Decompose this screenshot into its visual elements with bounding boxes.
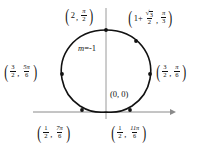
point-marker-upper-right xyxy=(134,39,138,43)
point-marker-lower-left xyxy=(80,108,84,112)
theta-denominator: 6 xyxy=(24,71,29,79)
slope-annotation: m=-1 xyxy=(78,44,96,53)
radius-fraction-left: 3 2 xyxy=(10,64,16,79)
point-label-lower-right: ( 1 2 , 11π 6 ) xyxy=(110,125,147,140)
theta-fraction-top: π 2 xyxy=(81,8,87,23)
radius-fraction-upper-right: √3 2 xyxy=(144,10,155,26)
theta-denominator: 3 xyxy=(161,17,166,25)
point-marker-right xyxy=(148,72,152,76)
point-label-upper-right: ( 1+ √3 2 , π 3 ) xyxy=(127,10,174,26)
radius-fraction-lower-right: 1 2 xyxy=(117,125,123,140)
pair-comma: , xyxy=(76,13,80,23)
radius-value-top: 2 xyxy=(71,11,75,20)
pair-comma: , xyxy=(50,130,54,140)
theta-denominator: 6 xyxy=(132,132,137,140)
ordered-pair-lower-right: ( 1 2 , 11π 6 ) xyxy=(110,125,147,140)
theta-fraction-lower-left: 7π 6 xyxy=(55,125,65,140)
radius-lead-upper-right: 1+ xyxy=(134,14,143,23)
radius-numerator-sqrt: √3 xyxy=(144,10,154,18)
ordered-pair-lower-left: ( 1 2 , 7π 6 ) xyxy=(36,125,71,140)
right-paren: ) xyxy=(89,9,93,23)
point-label-lower-left: ( 1 2 , 7π 6 ) xyxy=(36,125,71,140)
x-axis-arrow-icon xyxy=(170,109,176,115)
left-paren: ( xyxy=(111,126,115,140)
theta-numerator: π xyxy=(161,10,166,17)
right-paren: ) xyxy=(169,11,173,25)
point-marker-top xyxy=(104,28,108,32)
theta-denominator: 2 xyxy=(81,15,86,23)
ordered-pair-top: ( 2 , π 2 ) xyxy=(64,8,94,23)
left-paren: ( xyxy=(156,65,160,79)
theta-fraction-right: π 6 xyxy=(174,64,180,79)
cardioid-figure: ( 2 , π 2 ) ( 1+ √3 xyxy=(0,0,207,149)
left-paren: ( xyxy=(37,126,41,140)
point-label-top: ( 2 , π 2 ) xyxy=(64,8,94,23)
pair-comma: , xyxy=(169,69,173,79)
theta-denominator: 6 xyxy=(174,71,179,79)
slope-value: -1 xyxy=(89,43,96,53)
sqrt-radicand: 3 xyxy=(149,11,153,18)
radius-numerator: 3 xyxy=(162,64,167,71)
ordered-pair-left: ( 3 2 , 5π 6 ) xyxy=(3,64,38,79)
radius-denominator: 2 xyxy=(147,18,152,26)
origin-label: (0, 0) xyxy=(110,90,128,99)
right-paren: ) xyxy=(142,126,146,140)
theta-fraction-left: 5π 6 xyxy=(22,64,32,79)
left-paren: ( xyxy=(4,65,8,79)
left-paren: ( xyxy=(65,9,69,23)
radius-numerator: 3 xyxy=(10,64,15,71)
left-paren: ( xyxy=(128,11,132,25)
radius-numerator: 1 xyxy=(43,125,48,132)
ordered-pair-right: ( 3 2 , π 6 ) xyxy=(155,64,187,79)
radius-fraction-right: 3 2 xyxy=(162,64,168,79)
theta-fraction-lower-right: 11π 6 xyxy=(129,125,141,139)
point-marker-lower-right xyxy=(128,108,132,112)
right-paren: ) xyxy=(66,126,70,140)
theta-numerator: π xyxy=(81,8,86,15)
ordered-pair-upper-right: ( 1+ √3 2 , π 3 ) xyxy=(127,10,174,26)
sqrt-icon: √3 xyxy=(145,10,153,18)
point-label-right: ( 3 2 , π 6 ) xyxy=(155,64,187,79)
radius-fraction-lower-left: 1 2 xyxy=(43,125,49,140)
radius-denominator: 2 xyxy=(162,71,167,79)
right-paren: ) xyxy=(33,65,37,79)
point-label-left: ( 3 2 , 5π 6 ) xyxy=(3,64,38,79)
pair-comma: , xyxy=(124,130,128,140)
pair-comma: , xyxy=(156,16,160,26)
radius-denominator: 2 xyxy=(43,132,48,140)
right-paren: ) xyxy=(182,65,186,79)
theta-numerator: 7π xyxy=(55,125,64,132)
theta-numerator: 5π xyxy=(22,64,31,71)
theta-fraction-upper-right: π 3 xyxy=(161,10,167,25)
radius-denominator: 2 xyxy=(117,132,122,140)
point-marker-left xyxy=(60,72,64,76)
radius-numerator: 1 xyxy=(117,125,122,132)
theta-denominator: 6 xyxy=(57,132,62,140)
pair-comma: , xyxy=(17,69,21,79)
radius-denominator: 2 xyxy=(10,71,15,79)
theta-numerator: π xyxy=(174,64,179,71)
